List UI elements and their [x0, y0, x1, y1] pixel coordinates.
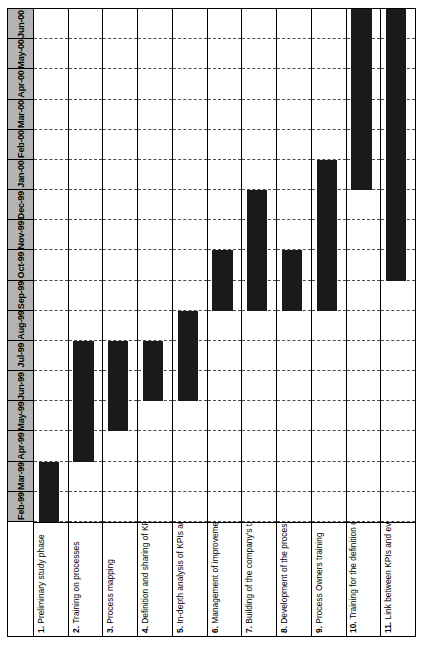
month-label-may-99: May-99 — [8, 401, 33, 431]
month-gridline — [34, 220, 68, 250]
task-bar-7[interactable] — [247, 190, 267, 311]
month-gridline — [138, 462, 172, 492]
month-gridline — [69, 69, 103, 99]
task-column-5[interactable]: 5. In-depth analysis of KPIs and identif… — [173, 9, 208, 636]
task-column-6[interactable]: 6. Management of improvement projects — [208, 9, 243, 636]
month-gridline — [69, 462, 103, 492]
month-gridline — [312, 371, 346, 401]
month-gridline — [138, 281, 172, 311]
month-gridline — [312, 39, 346, 69]
month-gridline — [34, 39, 68, 69]
month-gridline — [208, 371, 242, 401]
month-gridline — [138, 100, 172, 130]
task-column-7[interactable]: 7. Building of the company's tableau de … — [242, 9, 277, 636]
month-gridline — [208, 190, 242, 220]
month-label-text: May-99 — [16, 401, 25, 430]
month-gridline — [242, 401, 276, 431]
month-gridline — [34, 160, 68, 190]
month-gridline — [103, 311, 137, 341]
task-bar-1[interactable] — [39, 462, 59, 522]
month-gridline — [69, 160, 103, 190]
month-gridline — [173, 401, 207, 431]
month-gridline — [138, 401, 172, 431]
task-column-8[interactable]: 8. Development of the process Intranet — [277, 9, 312, 636]
task-column-11[interactable]: 11. Link between KPIs and evaluation of … — [381, 9, 415, 636]
gantt-chart-screenshot: Jun-00May-00Apr-00Mar-00Feb-00Jan-00Dec-… — [0, 0, 423, 652]
task-label-text: 1. Preliminary study phase — [36, 534, 46, 633]
task-timeline-3 — [103, 9, 137, 522]
month-gridline — [173, 492, 207, 522]
month-gridline — [208, 341, 242, 371]
task-name: Definition and sharing of KPIs — [140, 522, 150, 624]
month-gridline — [34, 69, 68, 99]
month-gridline — [312, 9, 346, 39]
month-gridline — [103, 492, 137, 522]
month-gridline — [277, 220, 311, 250]
task-bar-2[interactable] — [73, 341, 93, 462]
month-gridline — [242, 130, 276, 160]
month-gridline — [173, 250, 207, 280]
month-label-sep-99: Sep-99 — [8, 281, 33, 311]
task-name: Preliminary study phase — [36, 534, 46, 623]
month-gridline — [242, 371, 276, 401]
task-name: In-depth analysis of KPIs and identifica… — [175, 522, 185, 624]
task-number: 1. — [36, 624, 46, 633]
task-number: 11. — [383, 619, 393, 633]
task-bar-6[interactable] — [212, 250, 232, 310]
task-bar-8[interactable] — [282, 250, 302, 310]
month-label-text: Jun-99 — [16, 372, 25, 400]
task-label-4: 4. Definition and sharing of KPIs — [138, 522, 172, 636]
task-timeline-11 — [381, 9, 415, 522]
task-column-10[interactable]: 10. Training for the definition of sub-p… — [347, 9, 382, 636]
task-bar-9[interactable] — [317, 160, 337, 311]
task-bar-3[interactable] — [108, 341, 128, 432]
month-gridline — [69, 39, 103, 69]
month-gridline — [173, 9, 207, 39]
task-bar-11[interactable] — [386, 9, 406, 281]
task-column-3[interactable]: 3. Process mapping — [103, 9, 138, 636]
task-label-6: 6. Management of improvement projects — [208, 522, 242, 636]
task-number: 6. — [210, 624, 220, 633]
month-gridline — [277, 190, 311, 220]
task-column-9[interactable]: 9. Process Owners training — [312, 9, 347, 636]
month-gridline — [347, 220, 381, 250]
task-name: Training for the definition of sub-proce… — [348, 522, 358, 619]
month-gridline — [138, 431, 172, 461]
month-gridline — [347, 462, 381, 492]
month-gridline — [138, 9, 172, 39]
month-label-apr-00: Apr-00 — [8, 69, 33, 99]
month-gridline — [381, 311, 415, 341]
task-bar-5[interactable] — [178, 311, 198, 402]
month-gridline — [173, 281, 207, 311]
month-gridline — [312, 492, 346, 522]
month-gridline — [173, 190, 207, 220]
task-column-1[interactable]: 1. Preliminary study phase — [34, 9, 69, 636]
task-bar-4[interactable] — [143, 341, 163, 401]
month-gridline — [138, 311, 172, 341]
month-gridline — [347, 311, 381, 341]
month-label-may-00: May-00 — [8, 39, 33, 69]
month-gridline — [381, 281, 415, 311]
month-gridline — [34, 190, 68, 220]
month-gridline — [173, 462, 207, 492]
month-label-text: Sep-99 — [16, 281, 25, 309]
task-bar-10[interactable] — [351, 9, 371, 190]
month-gridline — [208, 431, 242, 461]
month-gridline — [347, 492, 381, 522]
task-timeline-1 — [34, 9, 68, 522]
task-column-2[interactable]: 2. Training on processes — [69, 9, 104, 636]
task-label-text: 11. Link between KPIs and evaluation of … — [383, 522, 393, 633]
month-gridline — [208, 401, 242, 431]
month-gridline — [103, 130, 137, 160]
month-label-text: Mar-99 — [16, 462, 25, 490]
month-label-text: Dec-99 — [16, 190, 25, 218]
task-label-7: 7. Building of the company's tableau de … — [242, 522, 276, 636]
task-column-4[interactable]: 4. Definition and sharing of KPIs — [138, 9, 173, 636]
task-label-3: 3. Process mapping — [103, 522, 137, 636]
month-gridline — [312, 100, 346, 130]
month-gridline — [277, 462, 311, 492]
task-name: Development of the process Intranet — [279, 522, 289, 624]
month-gridline — [34, 281, 68, 311]
month-gridline — [69, 100, 103, 130]
month-gridline — [103, 220, 137, 250]
